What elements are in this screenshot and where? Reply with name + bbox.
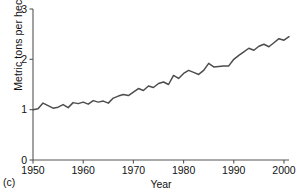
- x-tick-label: 1970: [122, 164, 146, 176]
- x-tick-label: 1950: [21, 164, 45, 176]
- x-tick-label: 2000: [272, 164, 296, 176]
- x-tick-label: 1980: [172, 164, 196, 176]
- panel-label: (c): [3, 176, 15, 188]
- x-axis-label: Year: [33, 178, 289, 190]
- y-tick-label: 1: [21, 103, 27, 115]
- y-tick-label: 3: [21, 3, 27, 15]
- x-tick-label: 1990: [222, 164, 246, 176]
- line-chart-plot: 0123195019601970198019902000: [0, 0, 297, 196]
- data-line: [33, 37, 289, 110]
- axes-group: [33, 9, 289, 160]
- y-tick-label: 2: [21, 53, 27, 65]
- figure-panel: Metric tons per hectare 0123195019601970…: [0, 0, 297, 196]
- tick-group: 0123195019601970198019902000: [21, 3, 296, 176]
- x-tick-label: 1960: [72, 164, 96, 176]
